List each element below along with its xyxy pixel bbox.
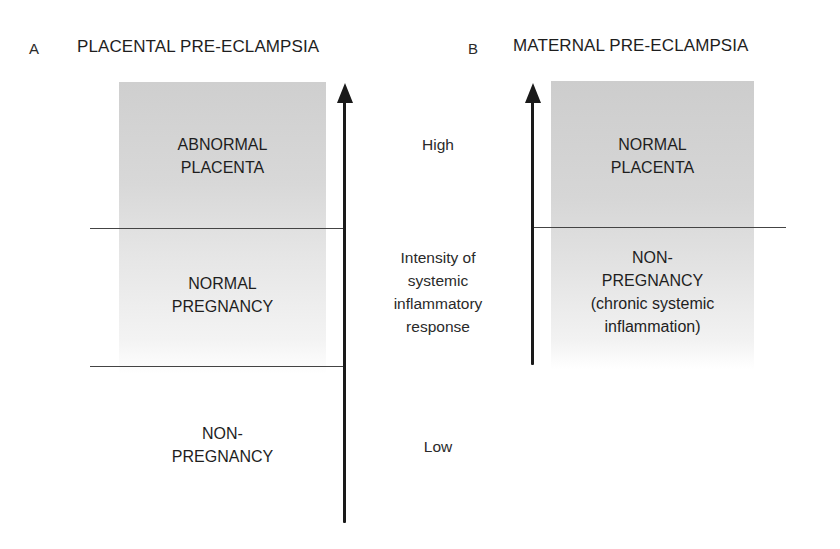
region-label-line: PREGNANCY: [119, 295, 326, 318]
region-label-line: (chronic systemic: [545, 292, 760, 315]
region-label-line: PREGNANCY: [545, 269, 760, 292]
region-label-line: PREGNANCY: [119, 445, 326, 468]
panel-b-title: MATERNAL PRE-ECLAMPSIA: [513, 36, 749, 56]
panel-a-divider-upper: [90, 228, 344, 229]
scale-high-label: High: [378, 133, 498, 156]
region-label-line: NON-: [545, 246, 760, 269]
panel-b-region-normal-placenta: NORMAL PLACENTA: [551, 133, 754, 179]
panel-a-region-non-pregnancy: NON- PREGNANCY: [119, 422, 326, 468]
region-label-line: NORMAL: [551, 133, 754, 156]
panel-a-title: PLACENTAL PRE-ECLAMPSIA: [77, 37, 319, 57]
region-label-line: inflammation): [545, 315, 760, 338]
panel-a-letter: A: [29, 40, 39, 57]
axis-title-line: response: [368, 315, 508, 338]
axis-title-line: inflammatory: [368, 292, 508, 315]
panel-b-letter: B: [468, 40, 478, 57]
region-label-line: PLACENTA: [119, 156, 326, 179]
region-label-line: PLACENTA: [551, 156, 754, 179]
region-label-line: ABNORMAL: [119, 133, 326, 156]
panel-a-region-abnormal-placenta: ABNORMAL PLACENTA: [119, 133, 326, 179]
panel-b-region-non-pregnancy: NON- PREGNANCY (chronic systemic inflamm…: [545, 246, 760, 338]
region-label-line: NORMAL: [119, 272, 326, 295]
axis-title-line: Intensity of: [368, 246, 508, 269]
region-label-line: NON-: [119, 422, 326, 445]
axis-title-line: systemic: [368, 269, 508, 292]
panel-b-axis-line: [531, 100, 534, 365]
axis-title: Intensity of systemic inflammatory respo…: [368, 246, 508, 338]
scale-low-label: Low: [378, 435, 498, 458]
panel-a-axis-line: [343, 100, 346, 523]
panel-a-region-normal-pregnancy: NORMAL PREGNANCY: [119, 272, 326, 318]
panel-b-divider: [533, 227, 786, 228]
panel-a-divider-lower: [90, 366, 344, 367]
